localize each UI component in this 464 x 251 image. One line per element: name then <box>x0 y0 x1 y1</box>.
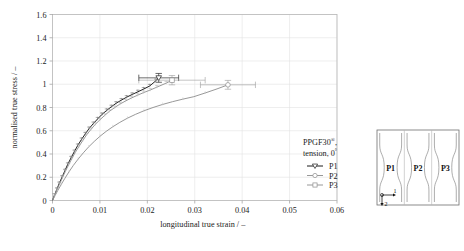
legend-title-comma: , <box>335 138 337 147</box>
legend-label-P3: P3 <box>329 181 338 190</box>
y-tick-label: 0.8 <box>36 104 46 113</box>
marker-square <box>170 78 174 82</box>
specimen-inset: P1P2P312 <box>377 130 459 207</box>
chart-figure: 00.20.40.60.811.21.41.600.010.020.030.04… <box>0 0 464 251</box>
y-tick-label: 1.6 <box>36 11 46 20</box>
y-tick-label: 0.4 <box>36 150 46 159</box>
legend-entry-P3[interactable]: P3 <box>307 181 338 190</box>
specimen-label-P3: P3 <box>441 164 450 173</box>
x-axis-title: longitudinal true strain / – <box>160 220 246 229</box>
y-tick-label: 0 <box>42 197 46 206</box>
x-tick-label: 0.03 <box>188 206 202 215</box>
y-axis-title: normalised true stress / – <box>10 66 19 149</box>
legend-entry-P1[interactable]: P1 <box>307 162 338 171</box>
marker-circle <box>313 173 317 177</box>
marker-square <box>313 183 317 187</box>
specimen-label-P1: P1 <box>386 164 395 173</box>
axis-2-label: 2 <box>385 201 388 207</box>
series-line-P2 <box>53 85 228 201</box>
marker-circle <box>226 83 231 88</box>
x-tick-label: 0.01 <box>93 206 107 215</box>
series-P3 <box>53 76 206 201</box>
y-tick-label: 1 <box>42 80 46 89</box>
series-line-P1 <box>53 78 159 201</box>
series-line-P3 <box>53 80 172 200</box>
chart-svg: 00.20.40.60.811.21.41.600.010.020.030.04… <box>0 0 464 251</box>
x-tick-label: 0.06 <box>330 206 344 215</box>
legend-degree-symbol: ° <box>335 148 337 154</box>
grid <box>53 15 338 201</box>
figure-root: 00.20.40.60.811.21.41.600.010.020.030.04… <box>0 0 464 251</box>
specimen-label-P2: P2 <box>414 164 423 173</box>
y-tick-label: 0.2 <box>36 173 46 182</box>
series-P1 <box>53 73 179 200</box>
x-tick-label: 0.05 <box>282 206 296 215</box>
axes: 00.20.40.60.811.21.41.600.010.020.030.04… <box>10 11 344 229</box>
y-tick-label: 1.4 <box>36 34 46 43</box>
data-series-group <box>53 73 256 200</box>
legend-label-P2: P2 <box>329 172 338 181</box>
y-tick-label: 0.6 <box>36 127 46 136</box>
legend-entry-P2[interactable]: P2 <box>307 172 338 181</box>
legend-title-line1: PPGF30®, <box>303 137 337 147</box>
x-tick-label: 0.02 <box>140 206 154 215</box>
chart-legend: PPGF30®,tension, 0°P1P2P3 <box>303 137 338 190</box>
axis-1-label: 1 <box>394 188 397 194</box>
y-tick-label: 1.2 <box>36 57 46 66</box>
legend-label-P1: P1 <box>329 162 338 171</box>
legend-title-line2: tension, 0° <box>303 148 337 158</box>
x-tick-label: 0.04 <box>235 206 249 215</box>
x-tick-label: 0 <box>50 206 54 215</box>
